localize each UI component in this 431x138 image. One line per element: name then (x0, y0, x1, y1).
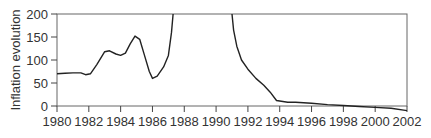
line-chart: 050100150200 198019821984198619881990199… (0, 0, 431, 138)
y-axis-title: Inflation evolution (8, 9, 23, 110)
line-segment (57, 14, 173, 78)
plot-frame (57, 14, 407, 106)
x-tick-label: 1986 (138, 114, 167, 129)
x-tick-label: 1980 (43, 114, 72, 129)
x-tick-label: 1984 (106, 114, 135, 129)
y-axis: 050100150200 (26, 7, 57, 114)
y-tick-label: 150 (26, 30, 48, 45)
y-tick-label: 50 (34, 76, 48, 91)
x-tick-label: 1988 (170, 114, 199, 129)
x-tick-label: 1996 (297, 114, 326, 129)
y-tick-label: 0 (41, 99, 48, 114)
x-tick-label: 1982 (74, 114, 103, 129)
x-tick-label: 1992 (233, 114, 262, 129)
y-tick-label: 100 (26, 53, 48, 68)
x-tick-label: 1998 (329, 114, 358, 129)
x-axis: 1980198219841986198819901992199419961998… (43, 106, 422, 129)
y-tick-label: 200 (26, 7, 48, 22)
line-segment (232, 14, 407, 111)
x-tick-label: 1994 (265, 114, 294, 129)
x-tick-label: 2002 (393, 114, 422, 129)
x-tick-label: 1990 (202, 114, 231, 129)
series-line (57, 14, 407, 111)
plot-border (57, 14, 407, 106)
x-tick-label: 2000 (361, 114, 390, 129)
